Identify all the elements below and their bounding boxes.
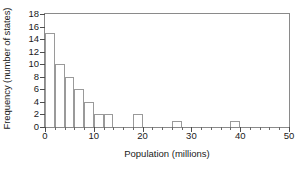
histogram-bar [84,102,94,127]
x-axis-tick-label: 30 [186,131,197,141]
y-axis-tick [40,52,45,53]
histogram-bar [74,89,84,127]
x-axis-minor-tick [230,127,231,130]
y-axis-tick-label: 6 [34,85,39,95]
x-axis-minor-tick [201,127,202,130]
x-axis-minor-tick [123,127,124,130]
x-axis-minor-tick [260,127,261,130]
y-axis-tick-label: 18 [28,9,39,19]
y-axis-tick [40,39,45,40]
x-axis-minor-tick [182,127,183,130]
y-axis-tick [40,64,45,65]
x-axis-minor-tick [162,127,163,130]
y-axis-tick-label: 4 [34,97,39,107]
x-axis-minor-tick [74,127,75,130]
y-axis-tick-label: 2 [34,110,39,120]
x-axis-minor-tick [221,127,222,130]
x-axis-minor-tick [104,127,105,130]
y-axis-tick [40,89,45,90]
x-axis-minor-tick [211,127,212,130]
x-axis-tick-label: 50 [284,131,295,141]
x-axis-tick-label: 40 [235,131,246,141]
x-axis-minor-tick [269,127,270,130]
histogram-bar [104,114,114,127]
x-axis-minor-tick [279,127,280,130]
x-axis-tick-label: 20 [137,131,148,141]
y-axis-tick-label: 0 [34,122,39,132]
x-axis-title: Population (millions) [44,148,290,159]
y-axis-tick [40,77,45,78]
plot-inner [45,14,289,127]
y-axis-tick-labels: 024681012141618 [13,0,41,175]
histogram-bar [65,77,75,127]
x-axis-minor-tick [172,127,173,130]
histogram-bar [45,33,55,127]
y-axis-tick-label: 16 [28,22,39,32]
x-axis-tick-label: 10 [89,131,100,141]
y-axis-tick-label: 14 [28,34,39,44]
x-axis-minor-tick [84,127,85,130]
y-axis-tick-label: 12 [28,47,39,57]
histogram-bar [172,121,182,127]
y-axis-tick [40,14,45,15]
plot-area [44,13,290,128]
x-axis-minor-tick [113,127,114,130]
x-axis-minor-tick [133,127,134,130]
y-axis-tick-label: 10 [28,59,39,69]
histogram-bar [55,64,65,127]
histogram-figure: Frequency (number of states) 02468101214… [0,0,304,175]
y-axis-title-text: Frequency (number of states) [2,7,13,129]
histogram-bar [133,114,143,127]
y-axis-tick [40,102,45,103]
y-axis-tick [40,114,45,115]
x-axis-tick-label: 0 [42,131,47,141]
x-axis-tick-labels: 01020304050 [44,131,290,145]
x-axis-minor-tick [65,127,66,130]
y-axis-title: Frequency (number of states) [0,0,14,136]
x-axis-minor-tick [55,127,56,130]
x-axis-minor-tick [152,127,153,130]
y-axis-tick-label: 8 [34,72,39,82]
histogram-bar [230,121,240,127]
y-axis-tick [40,27,45,28]
histogram-bar [94,114,104,127]
x-axis-minor-tick [250,127,251,130]
